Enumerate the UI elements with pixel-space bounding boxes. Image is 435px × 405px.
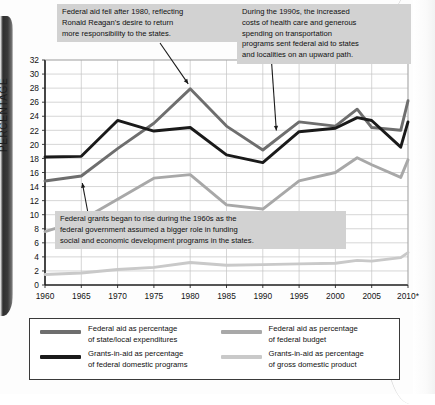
legend-item: Grants-in-aid as percentage of federal d…	[34, 349, 215, 374]
x-tick-label: 1995	[290, 291, 309, 301]
x-tick-label: 1975	[145, 291, 164, 301]
y-tick-label: 14	[30, 182, 40, 192]
legend-item: Federal aid as percentage of federal bud…	[215, 324, 396, 349]
legend-item: Grants-in-aid as percentage of gross dom…	[215, 349, 396, 374]
legend-swatch-icon	[40, 330, 81, 334]
y-tick-label: 24	[30, 111, 40, 121]
legend-label: Grants-in-aid as percentage of federal d…	[88, 349, 188, 370]
y-tick-label: 8	[34, 224, 39, 234]
legend-swatch-icon	[40, 355, 81, 359]
y-axis-title: PERCENTAGE	[0, 78, 9, 152]
legend-swatch-icon	[221, 355, 262, 359]
legend-label: Grants-in-aid as percentage of gross dom…	[269, 349, 364, 370]
y-tick-label: 18	[30, 154, 40, 164]
x-tick-label: 2000	[326, 291, 345, 301]
chart-legend: Federal aid as percentage of state/local…	[29, 318, 400, 380]
legend-label: Federal aid as percentage of federal bud…	[269, 324, 358, 345]
y-tick-label: 12	[30, 196, 40, 206]
legend-item: Federal aid as percentage of state/local…	[34, 324, 215, 349]
y-tick-label: 22	[30, 126, 40, 136]
x-tick-label: 1960	[36, 291, 55, 301]
y-tick-label: 20	[30, 140, 40, 150]
y-tick-label: 4	[34, 252, 39, 262]
legend-label: Federal aid as percentage of state/local…	[88, 324, 177, 345]
x-tick-label: 1965	[72, 291, 91, 301]
y-tick-label: 0	[34, 280, 39, 290]
x-tick-label: 2010*	[397, 291, 420, 301]
x-tick-label: 1970	[108, 291, 127, 301]
y-tick-label: 26	[30, 97, 40, 107]
legend-swatch-icon	[221, 330, 262, 334]
annotation-1990s: During the 1990s, the increased costs of…	[237, 4, 411, 64]
y-tick-label: 6	[34, 238, 39, 248]
y-tick-label: 32	[30, 55, 40, 65]
y-tick-label: 10	[30, 210, 40, 220]
y-tick-label: 16	[30, 168, 40, 178]
x-tick-label: 1980	[181, 291, 200, 301]
annotation-reagan: Federal aid fell after 1980, reflecting …	[57, 4, 239, 42]
x-tick-label: 1985	[217, 291, 236, 301]
annotation-1960s: Federal grants began to rise during the …	[55, 211, 346, 249]
x-tick-label: 1990	[253, 291, 272, 301]
y-tick-label: 28	[30, 83, 40, 93]
y-tick-label: 30	[30, 69, 40, 79]
x-tick-label: 2005	[362, 291, 381, 301]
y-tick-label: 2	[34, 266, 39, 276]
